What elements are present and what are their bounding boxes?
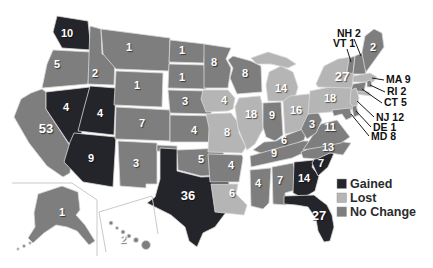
legend-swatch-no_change — [337, 207, 347, 217]
legend-swatch-gained — [337, 179, 347, 189]
state-NM-value: 3 — [133, 157, 139, 169]
state-WV-value: 3 — [309, 118, 315, 130]
inset-borders — [12, 183, 158, 256]
state-MD — [332, 108, 352, 120]
state-NE-value: 3 — [182, 95, 188, 107]
callout-line-DE — [356, 111, 371, 127]
legend-label-no_change: No Change — [350, 205, 416, 219]
state-AK-island2 — [29, 242, 32, 245]
state-OR-value: 5 — [54, 58, 60, 70]
state-IA-value: 4 — [221, 94, 228, 106]
state-HI-value: 2 — [120, 233, 126, 245]
callout-line-MD — [351, 114, 369, 136]
state-ID-value: 2 — [92, 67, 98, 79]
legend-label-gained: Gained — [350, 177, 392, 191]
state-LA-value: 6 — [229, 187, 235, 199]
state-NV-value: 4 — [63, 101, 70, 113]
states-layer — [14, 16, 384, 250]
state-CO-value: 7 — [139, 117, 145, 129]
callout-label-CT: CT 5 — [384, 96, 407, 108]
state-AL-value: 7 — [277, 174, 283, 186]
state-OK-value: 5 — [198, 153, 204, 165]
state-MN — [204, 44, 231, 88]
callout-label-MD: MD 8 — [371, 130, 396, 142]
state-MO-value: 8 — [224, 126, 230, 138]
state-AK-island1 — [17, 248, 19, 250]
callout-line-CT — [362, 89, 382, 103]
state-AK-value: 1 — [59, 206, 65, 218]
state-ME-value: 2 — [370, 41, 376, 53]
state-HI-island1 — [116, 227, 119, 230]
state-AR-value: 4 — [228, 159, 235, 171]
state-NC-value: 13 — [322, 141, 334, 153]
state-WY-value: 1 — [134, 79, 140, 91]
callout-label-VT: VT 1 — [333, 37, 355, 49]
state-KY-value: 6 — [281, 134, 287, 146]
state-TX-value: 36 — [181, 188, 195, 203]
state-AR — [208, 154, 243, 182]
state-FL — [284, 195, 334, 242]
state-HI-island3 — [127, 234, 131, 238]
state-HI-island5 — [142, 241, 151, 250]
state-UT-value: 4 — [97, 107, 104, 119]
state-SC-value: 7 — [318, 157, 324, 169]
state-ND-value: 1 — [179, 44, 185, 56]
state-IA — [201, 90, 235, 112]
state-DE — [352, 105, 359, 117]
state-FL-value: 27 — [312, 208, 326, 223]
state-PA-value: 18 — [324, 92, 336, 104]
state-WI-value: 8 — [242, 67, 248, 79]
state-GA-value: 14 — [298, 172, 311, 184]
state-AK-island0 — [23, 245, 26, 248]
state-NY-value: 27 — [335, 69, 349, 84]
legend-swatch-lost — [337, 193, 347, 203]
state-CA-value: 53 — [39, 121, 53, 136]
state-MT-value: 1 — [126, 41, 132, 53]
state-WA-value: 10 — [61, 27, 73, 39]
state-HI-island4 — [134, 238, 139, 243]
state-MN-value: 8 — [211, 56, 217, 68]
state-TN-value: 9 — [271, 147, 277, 159]
legend: GainedLostNo Change — [337, 177, 416, 219]
state-AZ-value: 9 — [88, 152, 94, 164]
state-VA-value: 11 — [324, 121, 336, 133]
state-HI-island0 — [109, 221, 113, 225]
callout-label-MA: MA 9 — [386, 73, 411, 85]
callout-line-RI — [370, 85, 385, 92]
state-KS-value: 4 — [191, 124, 198, 136]
map-canvas: 1055342491173113453684846818914166947142… — [0, 0, 433, 268]
state-SD — [168, 64, 206, 89]
state-MI-value: 14 — [275, 82, 288, 94]
legend-label-lost: Lost — [350, 191, 377, 205]
state-SD-value: 1 — [179, 71, 185, 83]
state-MS-value: 4 — [255, 177, 262, 189]
state-IL-value: 18 — [245, 108, 257, 120]
state-IN-value: 9 — [269, 109, 275, 121]
us-apportionment-map: 1055342491173113453684846818914166947142… — [0, 0, 433, 268]
state-ND — [169, 40, 205, 63]
state-OH-value: 16 — [290, 104, 302, 116]
state-OR — [42, 50, 91, 88]
